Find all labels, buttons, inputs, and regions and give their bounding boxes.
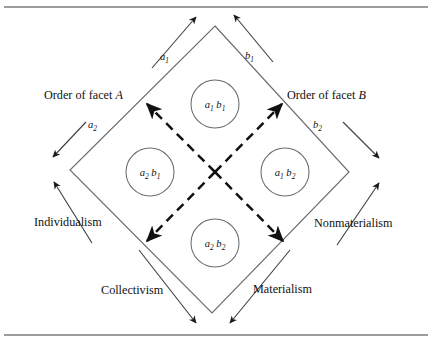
label-b1: b1 (245, 50, 254, 64)
dashed-diagonal-upright (215, 104, 282, 172)
label-a2: a2 (88, 119, 97, 133)
facet-b-title-plain: Order of facet (287, 88, 358, 102)
facet-a-title-italic: A (114, 88, 123, 102)
svg-text:a1 b1: a1 b1 (205, 99, 226, 113)
label-a2-sub: 2 (93, 124, 97, 133)
cell-a2b1: a2 b1 (126, 148, 174, 196)
facet-a-title-plain: Order of facet (44, 88, 115, 102)
cell-a1b1-second-sub: 1 (222, 104, 226, 113)
facet-diamond-diagram: Order of facet A Order of facet B a1 b1 … (0, 0, 432, 342)
label-nonmaterialism: Nonmaterialism (314, 216, 393, 230)
arrow-b2 (343, 122, 379, 158)
svg-text:a1: a1 (160, 51, 169, 65)
label-materialism: Materialism (253, 282, 312, 296)
label-b2: b2 (313, 119, 322, 133)
cell-a2b2: a2 b2 (191, 219, 239, 267)
label-a1-sub: 1 (165, 56, 169, 65)
svg-text:b2: b2 (313, 119, 322, 133)
arrow-individualism (54, 182, 92, 243)
diamond-outline (70, 26, 349, 313)
arrow-nonmaterialism (337, 183, 379, 245)
svg-text:a2 b2: a2 b2 (205, 238, 226, 252)
dashed-cross (147, 104, 283, 241)
cell-a2b1-second-sub: 1 (157, 172, 161, 181)
label-individualism: Individualism (34, 215, 102, 229)
label-b1-sub: 1 (250, 55, 254, 64)
dashed-diagonal-downleft (147, 172, 215, 241)
dashed-diagonal-upleft (147, 104, 215, 172)
facet-b-title: Order of facet B (287, 88, 366, 102)
cell-a1b2-second-sub: 2 (292, 172, 296, 181)
svg-text:Order of facet A: Order of facet A (44, 88, 123, 102)
direction-arrows (53, 15, 379, 323)
figure-container: Order of facet A Order of facet B a1 b1 … (0, 0, 432, 342)
label-a1: a1 (160, 51, 169, 65)
facet-b-title-italic: B (358, 88, 366, 102)
svg-text:a2: a2 (88, 119, 97, 133)
arrow-a2 (53, 122, 86, 157)
cell-a2b2-second-sub: 2 (222, 243, 226, 252)
cell-a1b2: a1 b2 (261, 148, 309, 196)
label-collectivism: Collectivism (101, 283, 164, 297)
cell-a1b1: a1 b1 (191, 80, 239, 128)
facet-a-title: Order of facet A (44, 88, 123, 102)
svg-text:a1 b2: a1 b2 (275, 167, 296, 181)
arrow-a1 (152, 17, 196, 68)
dashed-diagonal-downright (215, 172, 283, 241)
svg-text:Order of facet B: Order of facet B (287, 88, 366, 102)
svg-text:b1: b1 (245, 50, 254, 64)
label-b2-sub: 2 (318, 124, 322, 133)
svg-text:a2 b1: a2 b1 (140, 167, 161, 181)
